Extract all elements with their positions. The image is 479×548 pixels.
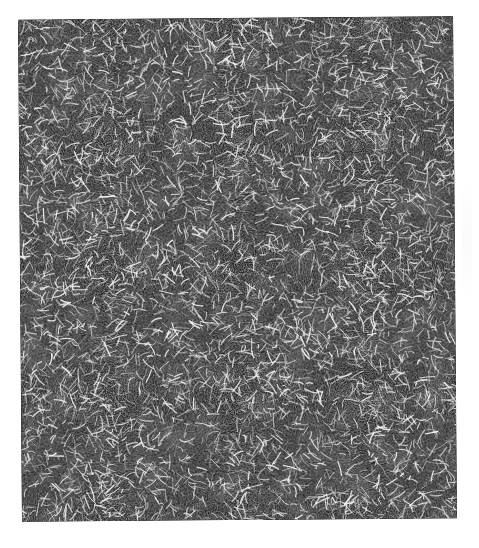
scan-bleed-mark xyxy=(462,180,472,300)
fiber-texture xyxy=(18,16,457,521)
fiber-network-micrograph xyxy=(18,16,457,521)
bright-patch-layer xyxy=(18,16,457,521)
scanned-page xyxy=(0,0,479,548)
